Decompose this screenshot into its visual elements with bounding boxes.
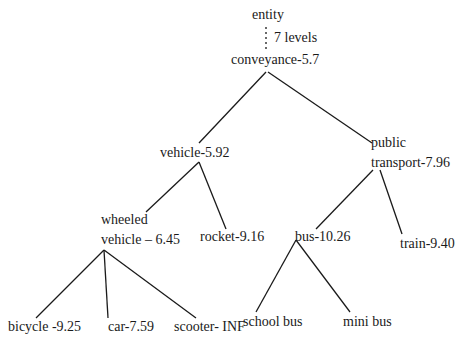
levels-gap-label: 7 levels: [274, 29, 317, 47]
edge-bus-mini-bus: [296, 240, 350, 312]
node-wheeled-vehicle-line2: vehicle – 6.45: [101, 231, 180, 249]
node-bus: bus-10.26: [295, 228, 351, 246]
edge-wheeled-vehicle-car: [104, 250, 108, 318]
node-mini-bus: mini bus: [343, 313, 392, 331]
node-rocket: rocket-9.16: [200, 228, 264, 246]
edge-conveyance-vehicle: [199, 72, 266, 143]
node-vehicle: vehicle-5.92: [160, 144, 230, 162]
edge-wheeled-vehicle-scooter: [104, 250, 196, 318]
node-bicycle: bicycle -9.25: [8, 318, 81, 336]
node-school-bus: school bus: [243, 313, 303, 331]
edge-public-transport-train: [380, 170, 402, 234]
node-train: train-9.40: [400, 235, 455, 253]
edge-vehicle-rocket: [199, 162, 226, 229]
edge-vehicle-wheeled-vehicle: [146, 162, 199, 212]
taxonomy-tree-diagram: entity 7 levels conveyance-5.7 vehicle-5…: [0, 0, 466, 357]
node-conveyance: conveyance-5.7: [231, 51, 319, 69]
node-scooter: scooter- INF: [174, 318, 245, 336]
node-car: car-7.59: [108, 318, 154, 336]
node-wheeled-vehicle-line1: wheeled: [101, 211, 148, 229]
node-public-transport-line2: transport-7.96: [371, 154, 450, 172]
edge-wheeled-vehicle-bicycle: [36, 250, 104, 318]
node-public-transport-line1: public: [371, 134, 406, 152]
edge-bus-school-bus: [256, 240, 296, 312]
node-entity: entity: [252, 6, 284, 24]
edge-conveyance-public-transport: [268, 72, 372, 143]
edge-public-transport-bus: [316, 170, 373, 229]
